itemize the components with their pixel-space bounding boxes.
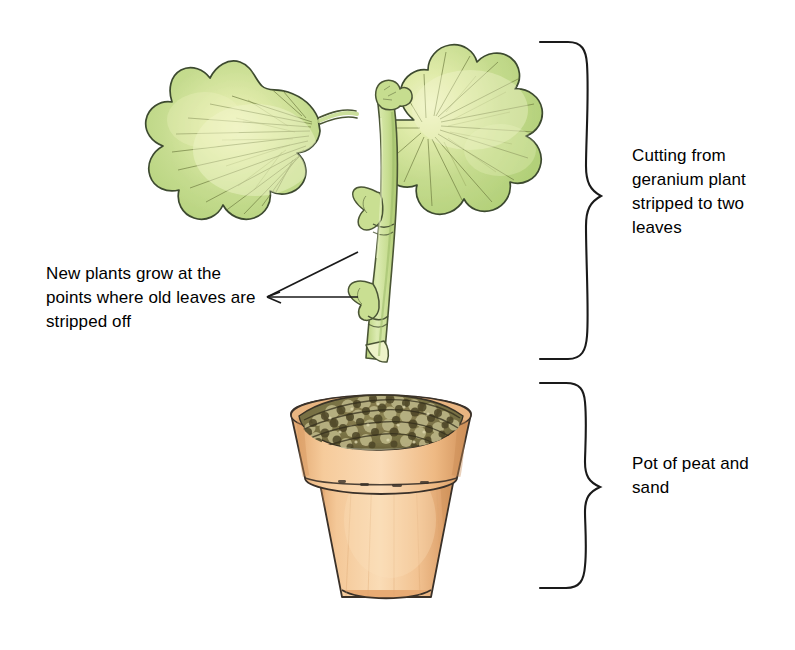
brace-cutting [540, 42, 601, 359]
label-new-plants-grow: New plants grow at the points where old … [46, 262, 271, 334]
left-leaf [146, 61, 320, 219]
left-leaf-petiole [318, 110, 357, 124]
brace-pot [540, 383, 600, 588]
label-cutting-from-geranium: Cutting from geranium plant stripped to … [632, 144, 792, 241]
new-plants-leaders [267, 252, 358, 303]
figure-canvas: Cutting from geranium plant stripped to … [0, 0, 795, 650]
right-leaf [382, 45, 542, 215]
label-pot-of-peat-and-sand: Pot of peat and sand [632, 452, 782, 500]
